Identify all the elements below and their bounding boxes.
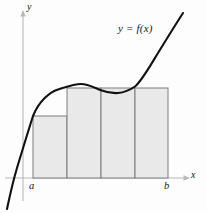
right-endpoint-label: b	[164, 181, 169, 192]
left-endpoint-label: a	[29, 181, 34, 192]
riemann-rect-3	[101, 88, 135, 178]
y-axis-label: y	[27, 2, 31, 12]
function-equation-label: y = f(x)	[118, 23, 153, 34]
riemann-rectangles	[33, 88, 168, 178]
riemann-rect-4	[135, 88, 168, 178]
riemann-rect-1	[33, 116, 67, 178]
x-axis-label: x	[191, 170, 195, 180]
riemann-sum-figure: y x a b y = f(x)	[0, 0, 207, 213]
riemann-rect-2	[67, 88, 101, 178]
y-axis	[20, 10, 25, 201]
